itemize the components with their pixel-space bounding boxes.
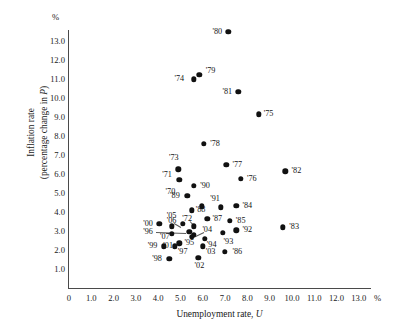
- data-label-87: '87: [212, 215, 222, 224]
- data-label-03: '03: [206, 248, 216, 257]
- data-point-98: [167, 256, 172, 261]
- data-label-97: '97: [178, 248, 188, 257]
- data-label-92: '92: [243, 226, 253, 235]
- data-point-00: [157, 221, 162, 226]
- data-label-88: '88: [196, 206, 206, 215]
- scatter-chart-figure: % 1.02.03.04.05.06.07.08.09.010.011.012.…: [0, 0, 396, 335]
- data-point-92: [234, 227, 239, 232]
- data-label-99: '99: [148, 242, 158, 251]
- data-label-89: '89: [170, 192, 180, 201]
- data-point-72: [191, 224, 196, 229]
- data-point-79: [197, 72, 202, 77]
- y-tick-2.0: 2.0: [25, 246, 65, 255]
- data-point-77: [223, 162, 228, 167]
- data-point-82: [283, 169, 288, 174]
- x-tick-13.0: 13.0: [345, 293, 373, 303]
- data-point-80: [226, 29, 231, 34]
- data-point-02: [196, 255, 201, 260]
- plot-area: '70'71'72'73'74'75'76'77'78'79'80'81'82'…: [69, 32, 370, 288]
- data-point-05: [180, 221, 185, 226]
- data-label-83: '83: [289, 223, 299, 232]
- y-axis-title-line2: (percentage change in P): [37, 48, 50, 218]
- data-label-01: '01: [163, 242, 173, 251]
- data-label-93: '93: [224, 237, 234, 246]
- data-point-88: [189, 208, 194, 213]
- data-label-78: '78: [210, 140, 220, 149]
- data-point-78: [201, 141, 206, 146]
- data-point-90: [191, 183, 196, 188]
- data-label-07: '07: [160, 233, 170, 242]
- data-label-75: '75: [264, 110, 274, 119]
- data-label-98: '98: [152, 254, 162, 263]
- data-label-90: '90: [200, 181, 210, 190]
- data-point-76: [238, 176, 243, 181]
- data-label-82: '82: [292, 167, 302, 176]
- data-label-00: '00: [143, 219, 153, 228]
- data-point-84: [234, 203, 239, 208]
- data-point-73: [176, 167, 181, 172]
- data-label-86: '86: [232, 248, 242, 257]
- data-label-81: '81: [222, 87, 232, 96]
- y-axis-title: Inflation rate (percentage change in P): [25, 48, 50, 218]
- data-label-73: '73: [169, 154, 179, 163]
- data-point-75: [256, 112, 261, 117]
- data-label-04: '04: [202, 226, 212, 235]
- data-point-86: [222, 249, 227, 254]
- data-label-77: '77: [232, 160, 242, 169]
- data-point-85: [227, 218, 232, 223]
- data-label-71: '71: [162, 171, 172, 180]
- data-label-80: '80: [212, 28, 222, 37]
- data-label-02: '02: [195, 262, 205, 271]
- data-label-85: '85: [236, 216, 246, 225]
- data-point-74: [191, 77, 196, 82]
- data-point-03: [200, 244, 205, 249]
- data-point-81: [236, 89, 241, 94]
- data-point-93: [220, 230, 225, 235]
- data-point-97: [177, 241, 182, 246]
- y-tick-1.0: 1.0: [25, 265, 65, 274]
- x-axis-unit-label: %: [374, 293, 381, 303]
- y-axis-title-line1: Inflation rate: [25, 48, 38, 218]
- data-label-91: '91: [210, 195, 220, 204]
- data-label-74: '74: [175, 75, 185, 84]
- x-axis-line: [68, 288, 371, 289]
- data-label-84: '84: [243, 201, 253, 210]
- data-point-70: [177, 177, 182, 182]
- data-label-06: '06: [167, 216, 177, 225]
- data-point-89: [184, 193, 189, 198]
- data-label-79: '79: [206, 67, 216, 76]
- data-point-83: [280, 225, 285, 230]
- x-axis-title: Unemployment rate, U: [69, 309, 370, 319]
- data-point-91: [218, 205, 223, 210]
- y-tick-13.0: 13.0: [25, 37, 65, 46]
- data-label-96: '96: [143, 228, 153, 237]
- data-label-76: '76: [247, 175, 257, 184]
- y-tick-3.0: 3.0: [25, 227, 65, 236]
- data-point-87: [205, 216, 210, 221]
